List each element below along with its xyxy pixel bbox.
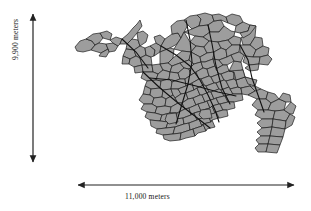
horizontal-scale-label: 11,000 meters: [125, 192, 170, 201]
map-figure: 9,900 meters 11,000 meters: [0, 0, 311, 211]
scale-arrows: [0, 0, 311, 211]
vertical-scale-label: 9,900 meters: [11, 19, 20, 60]
